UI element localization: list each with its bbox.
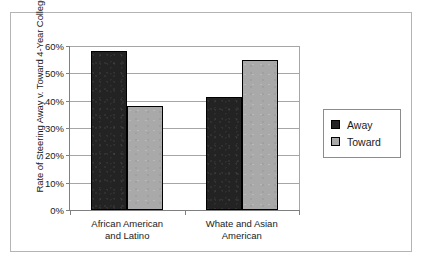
- y-axis-tick-label: 40%: [45, 95, 64, 106]
- y-axis-tick-label: 30%: [45, 123, 64, 134]
- y-axis-tick-mark: [66, 155, 70, 156]
- y-axis-tick-mark: [66, 46, 70, 47]
- x-axis-tick-mark: [185, 210, 186, 215]
- y-axis-tick-label: 50%: [45, 68, 64, 79]
- y-axis-tick-mark: [66, 73, 70, 74]
- bar-away-1: [91, 51, 127, 210]
- y-axis-tick-label: 20%: [45, 150, 64, 161]
- x-axis-category-label-2: Whate and AsianAmerican: [206, 218, 278, 241]
- legend-item-away[interactable]: Away: [331, 116, 393, 133]
- x-axis-category-label-line: Whate and Asian: [206, 218, 278, 230]
- x-axis-tick-mark: [299, 210, 300, 215]
- bar-toward-1: [127, 106, 163, 210]
- x-axis-category-label-line: African American: [91, 218, 163, 230]
- x-axis-tick-mark: [70, 210, 71, 215]
- x-axis-category-label-line: American: [206, 230, 278, 242]
- y-axis-tick-mark: [66, 128, 70, 129]
- x-axis-category-label-line: and Latino: [91, 230, 163, 242]
- legend-swatch-toward-icon: [331, 137, 340, 146]
- y-axis-tick-mark: [66, 183, 70, 184]
- legend-item-toward[interactable]: Toward: [331, 133, 393, 150]
- cut-off-text-sliver: [0, 0, 424, 6]
- legend-swatch-away-icon: [331, 120, 340, 129]
- legend: AwayToward: [323, 109, 401, 158]
- legend-label: Toward: [347, 136, 381, 148]
- x-axis-category-label-1: African Americanand Latino: [91, 218, 163, 241]
- gridline: [70, 46, 299, 47]
- plot-area: 0%10%20%30%40%50%60% African Americanand…: [69, 46, 300, 211]
- y-axis-tick-label: 10%: [45, 177, 64, 188]
- bar-toward-2: [242, 60, 278, 210]
- chart-figure: Rate of Steering Away v. Toward 4-Year C…: [10, 12, 412, 252]
- y-axis-tick-mark: [66, 101, 70, 102]
- y-axis-tick-label: 60%: [45, 41, 64, 52]
- y-axis-tick-label: 0%: [50, 205, 64, 216]
- legend-label: Away: [347, 119, 373, 131]
- bar-away-2: [206, 97, 242, 210]
